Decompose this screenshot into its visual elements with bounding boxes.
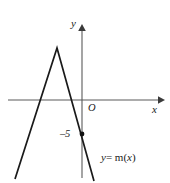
function-label-equals: = m( bbox=[106, 151, 127, 163]
y-axis-label: y bbox=[71, 18, 76, 29]
origin-label: O bbox=[88, 103, 96, 114]
x-axis-label: x bbox=[152, 104, 157, 115]
x-axis-arrowhead-icon bbox=[158, 96, 165, 104]
graph-figure: y x O –5 y= m(x) bbox=[0, 0, 170, 183]
function-label-close: ) bbox=[132, 151, 136, 163]
y-axis-arrowhead-icon bbox=[78, 24, 86, 31]
coordinate-plot bbox=[0, 0, 170, 183]
function-label: y= m(x) bbox=[101, 152, 136, 163]
y-intercept-label: –5 bbox=[60, 129, 70, 140]
y-intercept-point-marker bbox=[80, 132, 85, 137]
